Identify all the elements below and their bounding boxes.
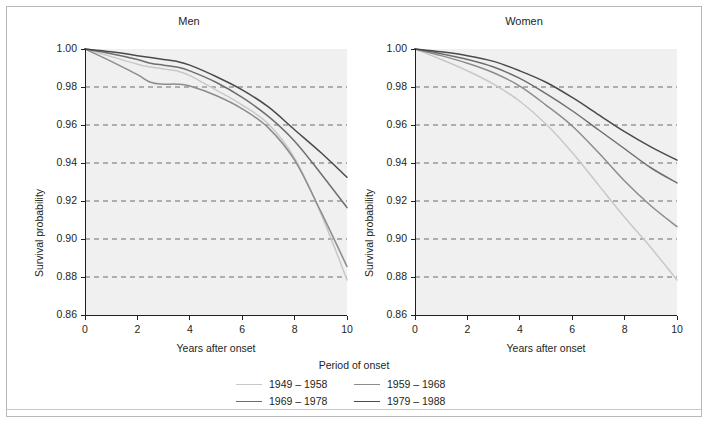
panel-women: Women 0.860.880.900.920.940.960.981.0002… (357, 15, 691, 325)
x-tick-label: 0 (404, 323, 426, 335)
y-tick-label: 0.90 (373, 232, 407, 244)
y-tick-mark (411, 49, 415, 50)
y-tick-label: 1.00 (43, 42, 77, 54)
y-axis-title: Survival probability (363, 189, 375, 277)
y-axis-line (415, 49, 416, 315)
y-tick-label: 0.86 (43, 308, 77, 320)
legend-label: 1949 – 1958 (269, 378, 327, 390)
y-tick-label: 0.92 (43, 194, 77, 206)
y-tick-label: 0.96 (43, 118, 77, 130)
y-tick-label: 0.88 (373, 270, 407, 282)
legend-item[interactable]: 1949 – 1958 (236, 378, 354, 390)
y-tick-mark (411, 87, 415, 88)
x-tick-mark (137, 316, 138, 320)
x-tick-label: 10 (666, 323, 688, 335)
y-tick-mark (81, 239, 85, 240)
legend-item[interactable]: 1959 – 1968 (354, 378, 472, 390)
x-tick-label: 4 (509, 323, 531, 335)
panel-men: Men 0.860.880.900.920.940.960.981.000246… (17, 15, 361, 325)
y-tick-mark (411, 163, 415, 164)
legend-label: 1959 – 1968 (387, 378, 445, 390)
y-tick-mark (411, 201, 415, 202)
figure-container: Men 0.860.880.900.920.940.960.981.000246… (6, 6, 702, 417)
y-tick-label: 0.94 (373, 156, 407, 168)
y-tick-mark (81, 201, 85, 202)
x-tick-mark (347, 316, 348, 320)
x-tick-mark (624, 316, 625, 320)
y-tick-label: 0.88 (43, 270, 77, 282)
x-axis-title: Years after onset (85, 342, 347, 354)
x-tick-label: 8 (284, 323, 306, 335)
y-tick-mark (81, 163, 85, 164)
chart-legend: Period of onset 1949 – 19581959 – 196819… (7, 359, 701, 407)
legend-label: 1969 – 1978 (269, 395, 327, 407)
series-line (415, 49, 677, 227)
x-axis-line (415, 315, 677, 316)
legend-label: 1979 – 1988 (387, 395, 445, 407)
legend-item[interactable]: 1969 – 1978 (236, 395, 354, 407)
y-axis-line (85, 49, 86, 315)
legend-swatch-line-icon (354, 401, 380, 402)
x-tick-mark (85, 316, 86, 320)
x-tick-label: 2 (126, 323, 148, 335)
series-line (85, 49, 347, 280)
x-tick-mark (415, 316, 416, 320)
legend-item[interactable]: 1979 – 1988 (354, 395, 472, 407)
x-tick-mark (572, 316, 573, 320)
x-tick-label: 6 (561, 323, 583, 335)
y-axis-title: Survival probability (33, 189, 45, 277)
y-tick-label: 0.86 (373, 308, 407, 320)
x-tick-label: 8 (614, 323, 636, 335)
y-tick-mark (81, 49, 85, 50)
legend-separator (7, 409, 701, 410)
legend-swatch-line-icon (236, 401, 262, 402)
legend-swatch-line-icon (354, 384, 380, 385)
x-tick-label: 0 (74, 323, 96, 335)
x-axis-title: Years after onset (415, 342, 677, 354)
y-tick-label: 0.92 (373, 194, 407, 206)
plot-svg (357, 15, 691, 323)
x-tick-label: 10 (336, 323, 358, 335)
y-tick-mark (81, 277, 85, 278)
y-tick-mark (411, 125, 415, 126)
x-tick-label: 6 (231, 323, 253, 335)
x-tick-mark (519, 316, 520, 320)
x-tick-mark (294, 316, 295, 320)
y-tick-mark (411, 239, 415, 240)
legend-swatch-line-icon (236, 384, 262, 385)
y-tick-label: 0.98 (373, 80, 407, 92)
x-tick-label: 4 (179, 323, 201, 335)
x-tick-mark (189, 316, 190, 320)
series-line (415, 49, 677, 280)
y-tick-label: 0.90 (43, 232, 77, 244)
y-tick-mark (81, 87, 85, 88)
y-tick-mark (81, 125, 85, 126)
legend-items: 1949 – 19581959 – 19681969 – 19781979 – … (236, 378, 472, 407)
x-tick-mark (467, 316, 468, 320)
y-tick-label: 1.00 (373, 42, 407, 54)
x-tick-label: 2 (456, 323, 478, 335)
y-tick-mark (411, 277, 415, 278)
y-tick-label: 0.98 (43, 80, 77, 92)
y-tick-label: 0.96 (373, 118, 407, 130)
x-tick-mark (242, 316, 243, 320)
x-tick-mark (677, 316, 678, 320)
legend-title: Period of onset (7, 359, 701, 371)
x-axis-line (85, 315, 347, 316)
y-tick-label: 0.94 (43, 156, 77, 168)
